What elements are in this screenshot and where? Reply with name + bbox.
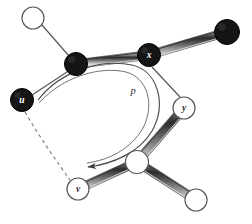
node-v[interactable]: v xyxy=(67,178,89,200)
edge-u-v-dashed xyxy=(25,112,70,180)
node-x-label: x xyxy=(146,50,152,60)
diagram-canvas: x u y xyxy=(0,0,252,224)
node-topleft[interactable] xyxy=(22,7,44,29)
dashed-edges-group xyxy=(25,112,70,180)
node-y-label: y xyxy=(181,103,187,113)
arc-label-p: p xyxy=(129,85,135,96)
node-u-label: u xyxy=(19,95,24,105)
node-botright[interactable] xyxy=(185,189,207,211)
arc-p-inner xyxy=(39,70,149,163)
node-x[interactable]: x xyxy=(138,44,161,67)
graph-diagram-figure: x u y xyxy=(0,0,252,224)
edge-topleft-black1 xyxy=(42,25,69,56)
node-topright[interactable] xyxy=(215,20,240,45)
node-black1[interactable] xyxy=(65,53,88,76)
node-u[interactable]: u xyxy=(11,89,34,112)
node-y[interactable]: y xyxy=(173,97,195,119)
edge-x-y xyxy=(152,67,180,97)
node-center[interactable] xyxy=(126,151,149,174)
edge-black1-u xyxy=(32,72,67,95)
